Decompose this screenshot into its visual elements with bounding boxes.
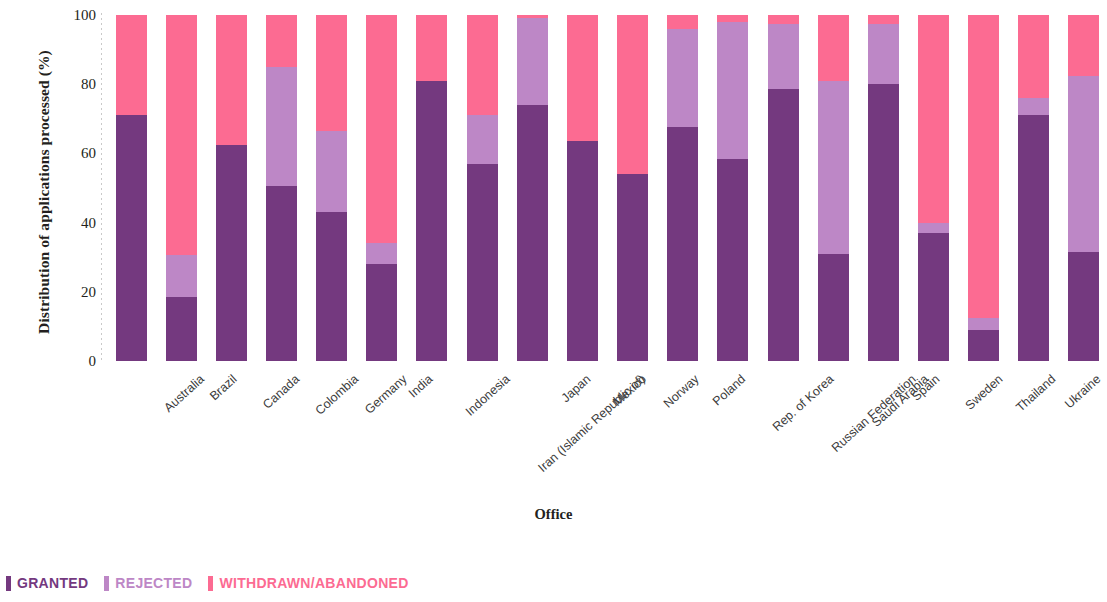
bar-segment-granted [818,254,849,361]
bar-segment-rejected [166,255,197,297]
bar-segment-granted [918,233,949,361]
x-axis-tick-labels: AustraliaBrazilCanadaColombiaGermanyIndi… [0,368,1107,478]
bar-segment-rejected [1068,76,1099,252]
bar-segment-withdrawn-abandoned [467,15,498,115]
bar-segment-withdrawn-abandoned [918,15,949,223]
x-tick-label: Poland [710,372,748,408]
bar-canada [216,15,247,361]
y-tick-label: 60 [56,145,96,162]
bar-segment-withdrawn-abandoned [667,15,698,29]
bar-segment-granted [1018,115,1049,361]
bar-segment-withdrawn-abandoned [617,15,648,174]
y-tick-label: 20 [56,283,96,300]
bar-segment-granted [768,89,799,361]
bar-segment-granted [266,186,297,361]
x-tick-label: Germany [362,372,410,417]
bar-segment-withdrawn-abandoned [166,15,197,255]
bar-segment-rejected [918,223,949,233]
bar-segment-withdrawn-abandoned [266,15,297,67]
bar-segment-withdrawn-abandoned [818,15,849,81]
bar-segment-granted [717,159,748,361]
x-tick-label: Russian Federation [828,372,918,455]
x-tick-label: Canada [260,372,302,412]
bar-segment-rejected [818,81,849,254]
bar-iran-islamic-republic-of [467,15,498,361]
x-tick-label: Norway [661,372,702,411]
y-tick-label: 100 [56,7,96,24]
bar-spain [868,15,899,361]
bar-segment-granted [216,145,247,361]
bar-segment-granted [166,297,197,361]
bar-ukraine [1018,15,1049,361]
legend-item-rejected: REJECTED [104,575,192,591]
legend-item-granted: GRANTED [6,575,88,591]
bar-saudi-arabia [818,15,849,361]
bar-segment-rejected [517,18,548,105]
stacked-bar-chart-figure: Distribution of applications processed (… [0,0,1107,602]
legend-label: WITHDRAWN/ABANDONED [219,575,408,591]
bar-mexico [567,15,598,361]
bar-colombia [266,15,297,361]
bar-segment-granted [667,127,698,361]
x-tick-label: Brazil [207,372,240,403]
plot-area [104,15,1107,361]
bar-segment-withdrawn-abandoned [366,15,397,243]
legend-swatch-icon [208,576,213,591]
x-axis-title: Office [0,506,1107,523]
bar-segment-withdrawn-abandoned [1018,15,1049,98]
bar-segment-withdrawn-abandoned [717,15,748,22]
legend-label: GRANTED [17,575,88,591]
bar-segment-withdrawn-abandoned [768,15,799,24]
bar-segment-rejected [266,67,297,186]
bar-segment-rejected [316,131,347,212]
bar-segment-withdrawn-abandoned [968,15,999,318]
bar-segment-rejected [717,22,748,159]
bar-russian-federation [768,15,799,361]
bar-segment-withdrawn-abandoned [216,15,247,145]
bar-segment-granted [116,115,147,361]
bar-brazil [166,15,197,361]
bar-australia [116,15,147,361]
bar-norway [617,15,648,361]
x-tick-label: Thailand [1013,372,1058,414]
x-tick-label: India [406,372,436,401]
x-tick-label: Sweden [963,372,1006,413]
bar-segment-rejected [1018,98,1049,115]
bar-segment-withdrawn-abandoned [567,15,598,141]
x-tick-label: Rep. of Korea [770,372,837,434]
x-tick-label: Colombia [313,372,362,418]
bar-segment-granted [868,84,899,361]
bar-segment-granted [467,164,498,361]
bar-germany [316,15,347,361]
bar-segment-granted [316,212,347,361]
bar-japan [517,15,548,361]
x-tick-label: Ukraine [1062,372,1103,411]
bar-segment-withdrawn-abandoned [416,15,447,81]
bar-u-s [1068,15,1099,361]
bar-segment-withdrawn-abandoned [316,15,347,131]
bar-india [366,15,397,361]
legend-swatch-icon [6,576,11,591]
bar-rep-of-korea [717,15,748,361]
bar-segment-rejected [968,318,999,330]
bar-sweden [918,15,949,361]
y-tick-label: 40 [56,214,96,231]
bar-segment-rejected [768,24,799,90]
bar-segment-rejected [868,24,899,85]
bar-segment-rejected [467,115,498,163]
bar-segment-rejected [366,243,397,264]
bar-segment-granted [1068,252,1099,361]
y-axis: 020406080100 [60,0,106,380]
x-tick-label: Japan [559,372,594,405]
y-tick-label: 80 [56,76,96,93]
bar-thailand [968,15,999,361]
bar-segment-granted [517,105,548,361]
bar-segment-granted [366,264,397,361]
bar-indonesia [416,15,447,361]
bar-segment-granted [617,174,648,361]
x-tick-label: Indonesia [463,372,513,419]
legend-label: REJECTED [115,575,192,591]
x-tick-label: Australia [161,372,207,415]
chart-legend: GRANTEDREJECTEDWITHDRAWN/ABANDONED [6,572,409,594]
y-tick-label: 0 [56,353,96,370]
